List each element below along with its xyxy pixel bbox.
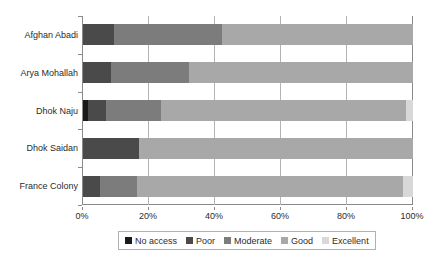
bar-row <box>83 100 413 121</box>
y-axis-category-labels: Afghan AbadiArya MohallahDhok NajuDhok S… <box>0 16 78 205</box>
y-tick-mark <box>78 16 82 17</box>
bar-segment <box>83 24 114 45</box>
bar-segment <box>189 62 413 83</box>
category-label: Dhok Naju <box>4 106 78 116</box>
bar-segment <box>222 24 413 45</box>
bar-segment <box>406 100 413 121</box>
bar-segment <box>111 62 189 83</box>
bar-row <box>83 138 413 159</box>
legend-item[interactable]: Good <box>281 236 313 246</box>
bar-segment <box>83 62 111 83</box>
legend-item[interactable]: Excellent <box>322 236 369 246</box>
bar-row <box>83 24 413 45</box>
category-label: Dhok Saidan <box>4 143 78 153</box>
y-tick-mark <box>78 205 82 206</box>
x-tick-label: 60% <box>271 211 289 222</box>
x-tick-label: 0% <box>75 211 88 222</box>
bar-segment <box>100 176 138 197</box>
x-axis-line <box>82 204 412 205</box>
bar-segment <box>137 176 403 197</box>
legend-label: No access <box>135 236 177 246</box>
category-label: Arya Mohallah <box>4 68 78 78</box>
category-label: France Colony <box>4 181 78 191</box>
stacked-bar-chart: Afghan AbadiArya MohallahDhok NajuDhok S… <box>0 0 441 262</box>
x-tick-mark <box>148 207 149 210</box>
legend-label: Good <box>291 236 313 246</box>
bar-segment <box>403 176 413 197</box>
bar-segment <box>83 138 139 159</box>
y-tick-mark <box>78 167 82 168</box>
bar-segment <box>106 100 160 121</box>
y-tick-mark <box>78 92 82 93</box>
x-tick-mark <box>82 207 83 210</box>
bar-segment <box>114 24 221 45</box>
legend-label: Excellent <box>332 236 369 246</box>
y-tick-mark <box>78 54 82 55</box>
x-tick-label: 80% <box>337 211 355 222</box>
legend-swatch-icon <box>281 237 288 244</box>
x-tick-mark <box>346 207 347 210</box>
x-tick-label: 100% <box>400 211 423 222</box>
legend-item[interactable]: No access <box>125 236 177 246</box>
y-tick-mark <box>78 129 82 130</box>
chart-legend: No accessPoorModerateGoodExcellent <box>118 231 376 250</box>
bar-segment <box>83 176 100 197</box>
bar-segment <box>139 138 413 159</box>
legend-label: Moderate <box>234 236 272 246</box>
x-tick-mark <box>280 207 281 210</box>
legend-swatch-icon <box>186 237 193 244</box>
legend-swatch-icon <box>125 237 132 244</box>
x-axis-tick-labels: 0%20%40%60%80%100% <box>82 207 412 223</box>
legend-swatch-icon <box>322 237 329 244</box>
bar-segment <box>88 100 106 121</box>
legend-item[interactable]: Poor <box>186 236 215 246</box>
x-tick-mark <box>412 207 413 210</box>
x-tick-label: 20% <box>139 211 157 222</box>
bar-row <box>83 62 413 83</box>
category-label: Afghan Abadi <box>4 30 78 40</box>
x-tick-label: 40% <box>205 211 223 222</box>
bar-segment <box>161 100 407 121</box>
legend-label: Poor <box>196 236 215 246</box>
bar-row <box>83 176 413 197</box>
legend-swatch-icon <box>224 237 231 244</box>
legend-item[interactable]: Moderate <box>224 236 272 246</box>
plot-area <box>82 16 412 205</box>
x-tick-mark <box>214 207 215 210</box>
